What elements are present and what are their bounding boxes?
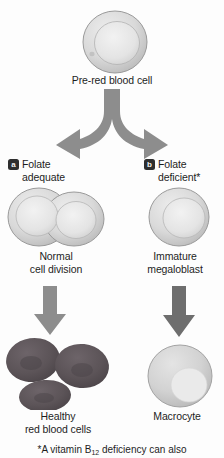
macrocyte-illustration: [146, 343, 214, 409]
branch-label-a-text: Folate adequate: [22, 158, 65, 183]
footnote-prefix: *A vitamin B: [38, 444, 92, 455]
branch-label-a: aFolate adequate: [8, 158, 65, 183]
pre-red-blood-cell-caption: Pre-red blood cell: [32, 74, 192, 87]
immature-megaloblast-caption: Immature megaloblast: [126, 250, 224, 275]
branch-label-b-text: Folate deficient*: [158, 158, 200, 183]
immature-megaloblast-illustration: [148, 186, 212, 248]
bifurcating-arrow: [52, 89, 172, 161]
macrocyte-caption: Macrocyte: [132, 410, 222, 423]
footnote: *A vitamin B12 deficiency can also: [0, 444, 224, 458]
pre-red-blood-cell-illustration: [80, 9, 150, 77]
branch-badge-a: a: [8, 159, 19, 170]
branch-badge-b: b: [144, 159, 155, 170]
right-down-arrow: [162, 286, 196, 338]
branch-label-b: bFolate deficient*: [144, 158, 200, 183]
folate-rbc-diagram: Pre-red blood cell aFolate adequate bFol…: [0, 0, 224, 458]
footnote-suffix: deficiency can also: [99, 444, 186, 455]
healthy-red-blood-cells-illustration: [4, 336, 112, 410]
healthy-red-blood-cells-caption: Healthy red blood cells: [0, 410, 116, 435]
normal-cell-division-caption: Normal cell division: [0, 250, 112, 275]
normal-cell-division-illustration: [6, 186, 106, 248]
left-down-arrow: [33, 286, 67, 336]
